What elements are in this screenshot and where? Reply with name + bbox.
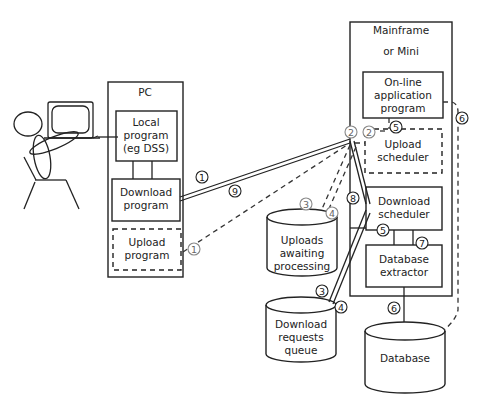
step-3-uploads: 3 xyxy=(303,199,309,210)
step-2-upload: 2 xyxy=(366,127,372,138)
svg-text:(eg DSS): (eg DSS) xyxy=(123,142,169,154)
svg-text:Local: Local xyxy=(132,116,159,128)
upload-scheduler-box: Upload scheduler xyxy=(365,129,442,173)
step-9: 9 xyxy=(232,186,238,197)
step-6-online: 6 xyxy=(459,113,465,124)
svg-text:Uploads: Uploads xyxy=(281,234,323,246)
svg-text:processing: processing xyxy=(274,260,331,272)
step-3-download: 3 xyxy=(319,286,325,297)
download-scheduler-box: Download scheduler xyxy=(366,187,442,230)
svg-text:On-line: On-line xyxy=(384,76,422,88)
local-program-box: Local program (eg DSS) xyxy=(116,111,177,161)
step-7: 7 xyxy=(419,238,425,249)
svg-text:application: application xyxy=(374,89,432,101)
online-application-box: On-line application program xyxy=(363,72,443,118)
mainframe-title: Mainframe xyxy=(373,24,429,36)
database-store: Database xyxy=(365,322,445,393)
svg-text:or Mini: or Mini xyxy=(383,45,419,57)
step-1-upload: 1 xyxy=(191,244,197,255)
svg-text:scheduler: scheduler xyxy=(377,151,429,163)
uploads-awaiting-store: Uploads awaiting processing xyxy=(267,209,337,276)
svg-text:queue: queue xyxy=(285,344,318,356)
pc-title: PC xyxy=(138,86,152,98)
step-4-download: 4 xyxy=(338,302,344,313)
svg-text:Upload: Upload xyxy=(129,236,166,248)
svg-text:awaiting: awaiting xyxy=(280,247,325,259)
step-6-database: 6 xyxy=(391,303,397,314)
upload-program-box: Upload program xyxy=(113,229,181,270)
data-download-diagram: PC Local program (eg DSS) Download progr… xyxy=(0,0,485,401)
step-1: 1 xyxy=(199,172,205,183)
svg-text:Download: Download xyxy=(275,318,327,330)
mainframe-container: Mainframe or Mini On-line application pr… xyxy=(350,22,452,296)
download-program-box: Download program xyxy=(112,179,180,221)
step-2: 2 xyxy=(348,127,354,138)
step-4-uploads: 4 xyxy=(329,208,335,219)
svg-text:program: program xyxy=(124,129,169,141)
svg-text:Upload: Upload xyxy=(385,138,422,150)
svg-text:Database: Database xyxy=(379,253,429,265)
svg-text:program: program xyxy=(125,249,170,261)
svg-text:Database: Database xyxy=(380,352,430,364)
database-extractor-box: Database extractor xyxy=(366,245,442,287)
user-figure xyxy=(14,102,118,209)
step-5-download: 5 xyxy=(380,225,386,236)
svg-text:requests: requests xyxy=(278,331,323,343)
download-requests-store: Download requests queue xyxy=(266,297,336,362)
pc-container: PC Local program (eg DSS) Download progr… xyxy=(108,82,183,277)
svg-text:scheduler: scheduler xyxy=(378,208,430,220)
step-8: 8 xyxy=(350,193,356,204)
svg-text:program: program xyxy=(381,102,426,114)
svg-text:extractor: extractor xyxy=(380,266,429,278)
step-5-upload: 5 xyxy=(393,122,399,133)
svg-text:Download: Download xyxy=(378,195,430,207)
svg-text:program: program xyxy=(124,199,169,211)
svg-text:Download: Download xyxy=(120,186,172,198)
